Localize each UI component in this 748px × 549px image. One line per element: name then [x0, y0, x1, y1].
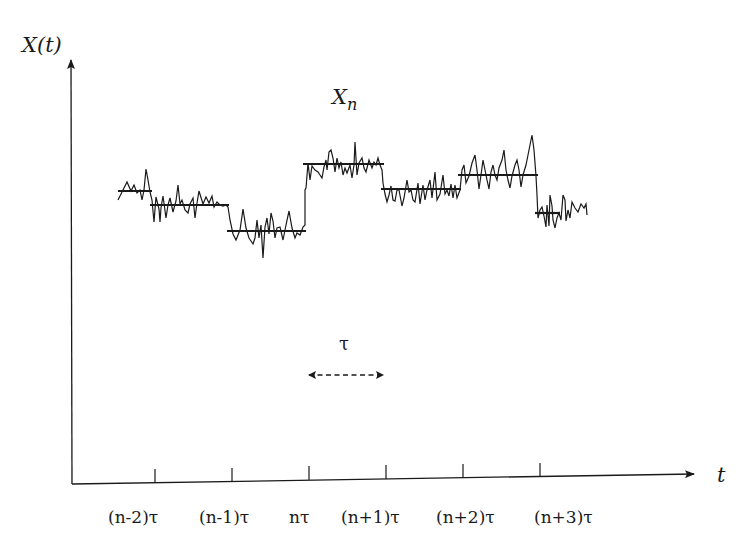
tick-label: (n+2)τ: [436, 507, 495, 527]
tick-labels: (n-2)τ (n-1)τ nτ (n+1)τ (n+2)τ (n+3)τ: [108, 507, 593, 527]
tick-label: (n+1)τ: [341, 507, 400, 527]
tick-label: (n-1)τ: [199, 507, 249, 527]
noisy-signal: [118, 135, 587, 258]
tick-label: (n+3)τ: [534, 507, 593, 527]
x-axis: [72, 474, 694, 484]
time-series-diagram: X(t) t (n-2)τ (n-1)τ nτ (n+1)τ (n+2)τ (n…: [0, 0, 748, 549]
level-lines: [118, 164, 560, 231]
tick-label: (n-2)τ: [108, 507, 158, 527]
interval-label: τ: [339, 333, 349, 354]
tick-label: nτ: [289, 507, 309, 527]
y-axis: [71, 60, 72, 484]
level-label-subscript: n: [347, 95, 357, 114]
level-label-main: X: [330, 85, 348, 109]
x-axis-label: t: [717, 463, 726, 487]
y-axis-label: X(t): [20, 33, 62, 57]
level-label: Xn: [330, 85, 357, 114]
